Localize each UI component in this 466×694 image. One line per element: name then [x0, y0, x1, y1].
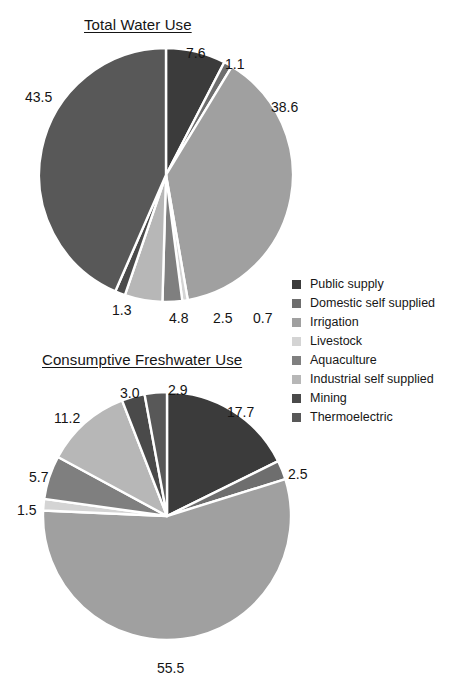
data-label-total-public-supply: 7.6: [186, 46, 205, 60]
data-label-total-mining: 1.3: [112, 303, 131, 317]
legend-item[interactable]: Thermoelectric: [292, 408, 464, 426]
figure-canvas: Total Water Use 7.6 1.1 38.6 0.7 2.5 4.8…: [0, 0, 466, 694]
legend-swatch-icon: [292, 299, 301, 308]
legend-item-label: Irrigation: [310, 316, 359, 329]
data-label-consumptive-thermoelectric: 2.9: [168, 383, 187, 397]
legend-item-label: Public supply: [310, 278, 384, 291]
data-label-consumptive-livestock: 1.5: [17, 503, 36, 517]
pie-chart-total-water-use-svg: [38, 47, 294, 303]
legend-item-label: Domestic self supplied: [310, 297, 435, 310]
legend: Public supplyDomestic self suppliedIrrig…: [292, 275, 464, 427]
pie-chart-consumptive-freshwater-use: [42, 391, 292, 645]
legend-swatch-icon: [292, 413, 301, 422]
data-label-total-domestic-self-supplied: 1.1: [225, 57, 244, 71]
data-label-total-industrial-self-supplied: 4.8: [169, 311, 188, 325]
legend-swatch-icon: [292, 318, 301, 327]
data-label-consumptive-industrial-self-supplied: 11.2: [54, 411, 80, 425]
legend-item[interactable]: Industrial self supplied: [292, 370, 464, 388]
legend-swatch-icon: [292, 337, 301, 346]
data-label-consumptive-public-supply: 17.7: [227, 405, 254, 419]
legend-item[interactable]: Mining: [292, 389, 464, 407]
legend-swatch-icon: [292, 356, 301, 365]
legend-item-label: Industrial self supplied: [310, 373, 434, 386]
legend-item-label: Mining: [310, 392, 347, 405]
data-label-consumptive-mining: 3.0: [120, 386, 139, 400]
chart-title-consumptive-freshwater-use: Consumptive Freshwater Use: [42, 351, 242, 368]
pie-chart-total-water-use: [38, 47, 294, 307]
legend-item[interactable]: Public supply: [292, 275, 464, 293]
chart-title-total-water-use: Total Water Use: [84, 16, 192, 33]
legend-item[interactable]: Domestic self supplied: [292, 294, 464, 312]
data-label-total-irrigation: 38.6: [271, 100, 298, 114]
data-label-consumptive-domestic-self-supplied: 2.5: [288, 467, 307, 481]
data-label-total-livestock: 0.7: [253, 311, 272, 325]
legend-item-label: Livestock: [310, 335, 362, 348]
legend-item-label: Aquaculture: [310, 354, 377, 367]
data-label-total-thermoelectric: 43.5: [25, 90, 52, 104]
data-label-total-aquaculture: 2.5: [213, 311, 232, 325]
legend-swatch-icon: [292, 375, 301, 384]
data-label-consumptive-irrigation: 55.5: [157, 661, 184, 675]
pie-chart-consumptive-freshwater-use-svg: [42, 391, 292, 641]
legend-item-label: Thermoelectric: [310, 411, 393, 424]
legend-item[interactable]: Livestock: [292, 332, 464, 350]
legend-swatch-icon: [292, 280, 301, 289]
legend-item[interactable]: Irrigation: [292, 313, 464, 331]
legend-item[interactable]: Aquaculture: [292, 351, 464, 369]
data-label-consumptive-aquaculture: 5.7: [29, 470, 48, 484]
legend-swatch-icon: [292, 394, 301, 403]
